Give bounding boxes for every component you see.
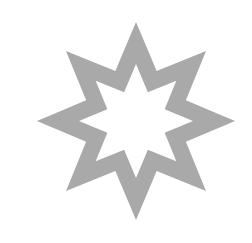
eight-pointed-star-icon [0, 0, 252, 243]
canvas [0, 0, 252, 243]
star-outline-shape [37, 22, 235, 220]
